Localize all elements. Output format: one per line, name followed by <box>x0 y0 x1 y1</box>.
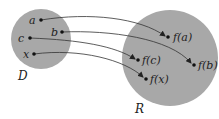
label-x: x <box>23 48 30 61</box>
range-label: R <box>134 102 144 116</box>
label-a: a <box>29 14 36 27</box>
point-b <box>60 30 64 34</box>
point-x <box>32 52 36 56</box>
point-a <box>39 18 43 22</box>
domain-label: D <box>17 69 28 83</box>
label-fa: f(a) <box>172 31 192 44</box>
point-c <box>28 36 32 40</box>
range-set-circle <box>122 10 218 106</box>
point-fb <box>192 63 196 67</box>
label-fc: f(c) <box>141 54 161 67</box>
point-fc <box>136 58 140 62</box>
label-c: c <box>18 32 24 45</box>
point-fa <box>166 35 170 39</box>
label-fx: f(x) <box>149 73 169 86</box>
function-mapping-diagram: a b c x f(a) f(b) f(c) f(x) D R <box>0 0 219 119</box>
point-fx <box>144 77 148 81</box>
label-b: b <box>51 26 58 39</box>
label-fb: f(b) <box>197 59 218 72</box>
